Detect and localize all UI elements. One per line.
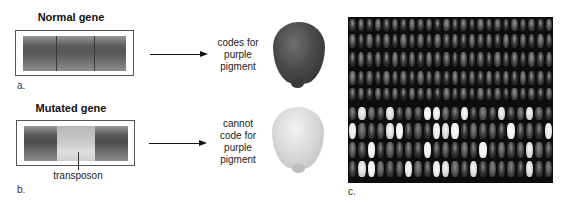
kernel-row xyxy=(348,19,553,31)
kernel xyxy=(442,161,449,177)
kernel xyxy=(417,71,424,85)
kernel xyxy=(368,161,375,177)
caption-line: codes for xyxy=(213,37,263,49)
kernel xyxy=(486,71,493,85)
kernel xyxy=(489,107,496,120)
kernel xyxy=(433,107,440,120)
gene-segment xyxy=(57,36,94,71)
kernel xyxy=(511,88,518,100)
kernel xyxy=(426,71,433,85)
kernel xyxy=(535,123,542,139)
kernel xyxy=(414,107,421,120)
kernel xyxy=(386,142,393,158)
kernel xyxy=(489,161,496,177)
gene-segment xyxy=(24,126,57,161)
kernel xyxy=(442,142,449,158)
kernel xyxy=(424,142,431,158)
kernel xyxy=(400,52,407,67)
mutated-gene-title: Mutated gene xyxy=(10,102,132,114)
kernel xyxy=(366,34,373,48)
kernel xyxy=(477,34,484,48)
kernel xyxy=(469,34,476,48)
kernel-row xyxy=(348,34,553,48)
kernel xyxy=(405,123,412,139)
kernel xyxy=(434,52,441,67)
kernel xyxy=(451,142,458,158)
kernel xyxy=(443,19,450,31)
kernel xyxy=(507,107,514,120)
kernel xyxy=(546,34,553,48)
kernel xyxy=(451,161,458,177)
white-kernel-tip xyxy=(292,164,305,173)
kernel xyxy=(368,142,375,158)
kernel xyxy=(511,19,518,31)
kernel xyxy=(400,88,407,100)
mutated-gene-strip xyxy=(24,126,128,161)
kernel xyxy=(546,88,553,100)
kernel xyxy=(545,161,552,177)
kernel xyxy=(383,34,390,48)
kernel xyxy=(460,71,467,85)
kernel xyxy=(377,142,384,158)
corn-ear-photo xyxy=(348,17,553,183)
kernel xyxy=(417,52,424,67)
kernel xyxy=(349,123,356,139)
kernel xyxy=(417,34,424,48)
kernel xyxy=(434,88,441,100)
kernel xyxy=(392,19,399,31)
kernel xyxy=(375,52,382,67)
mutated-gene-box xyxy=(16,120,135,166)
kernel xyxy=(486,34,493,48)
kernel xyxy=(452,88,459,100)
kernel xyxy=(400,71,407,85)
kernel xyxy=(452,52,459,67)
kernel xyxy=(426,88,433,100)
kernel xyxy=(442,123,449,139)
kernel xyxy=(349,107,356,120)
kernel xyxy=(528,71,535,85)
kernel xyxy=(546,71,553,85)
kernel xyxy=(375,19,382,31)
kernel xyxy=(383,71,390,85)
kernel xyxy=(409,19,416,31)
kernel xyxy=(368,107,375,120)
kernel xyxy=(489,142,496,158)
transposon-pointer-line xyxy=(78,152,79,170)
kernel xyxy=(409,71,416,85)
kernel xyxy=(528,52,535,67)
kernel xyxy=(451,107,458,120)
kernel xyxy=(470,123,477,139)
kernel xyxy=(469,52,476,67)
kernel xyxy=(375,34,382,48)
kernel xyxy=(503,52,510,67)
arrow-a-line xyxy=(150,54,202,55)
kernel xyxy=(546,52,553,67)
caption-line: pigment xyxy=(213,154,263,166)
panel-label-c: c. xyxy=(348,186,356,197)
kernel xyxy=(494,88,501,100)
kernel xyxy=(451,123,458,139)
kernel xyxy=(434,19,441,31)
kernel xyxy=(414,161,421,177)
kernel xyxy=(520,52,527,67)
kernel xyxy=(498,123,505,139)
kernel xyxy=(469,19,476,31)
kernel xyxy=(470,161,477,177)
kernel xyxy=(507,142,514,158)
kernel xyxy=(434,34,441,48)
kernel xyxy=(383,88,390,100)
kernel xyxy=(443,52,450,67)
kernel xyxy=(409,52,416,67)
kernel xyxy=(417,88,424,100)
panel-label-a: a. xyxy=(17,80,25,91)
kernel xyxy=(405,161,412,177)
kernel xyxy=(396,107,403,120)
kernel xyxy=(368,123,375,139)
kernel xyxy=(349,161,356,177)
kernel xyxy=(460,34,467,48)
kernel xyxy=(537,71,544,85)
kernel xyxy=(424,107,431,120)
kernel xyxy=(526,123,533,139)
kernel xyxy=(545,142,552,158)
kernel xyxy=(503,71,510,85)
